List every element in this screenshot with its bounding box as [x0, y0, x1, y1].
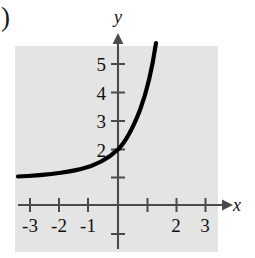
- y-tick-label-2: 2: [86, 141, 106, 160]
- x-tick-label-3: 3: [192, 216, 218, 235]
- x-tick-label-neg2: -2: [46, 216, 72, 235]
- x-axis: [18, 200, 233, 211]
- y-tick-label-5: 5: [86, 55, 106, 74]
- y-tick-label-4: 4: [86, 84, 106, 103]
- y-axis-label: y: [114, 8, 122, 26]
- x-tick-label-2: 2: [163, 216, 189, 235]
- x-tick-label-neg3: -3: [17, 216, 43, 235]
- y-tick-label-3: 3: [86, 112, 106, 131]
- x-axis-label: x: [233, 196, 241, 214]
- figure-container: ): [0, 0, 255, 258]
- x-tick-label-neg1: -1: [75, 216, 101, 235]
- y-axis: [113, 33, 124, 249]
